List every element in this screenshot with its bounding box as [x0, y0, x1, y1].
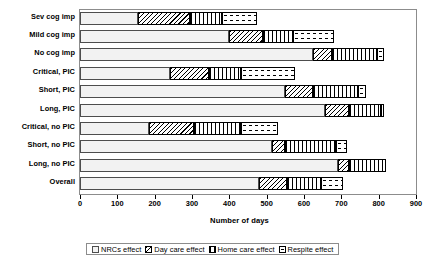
- legend-label: Home care effect: [218, 245, 275, 254]
- chart-legend: NRCs effectDay care effectHome care effe…: [86, 243, 339, 255]
- x-tick-label: 600: [284, 199, 324, 208]
- bar-segment: [263, 30, 293, 43]
- x-axis-title: Number of days: [0, 216, 441, 225]
- bar-segment: [377, 48, 384, 61]
- x-tick-label: 500: [247, 199, 287, 208]
- y-axis-label: No cog imp: [0, 49, 75, 57]
- bar-segment: [149, 122, 194, 135]
- bar-segment: [241, 122, 278, 135]
- y-axis-label: Critical, PIC: [0, 68, 75, 76]
- bar-segment: [209, 67, 241, 80]
- legend-swatch: [279, 246, 286, 253]
- bar-segment: [80, 85, 285, 98]
- bars-container: [80, 10, 416, 194]
- bar-segment: [285, 140, 335, 153]
- y-axis-label: Mild cog imp: [0, 31, 75, 39]
- bar-segment: [80, 177, 259, 190]
- x-tick-label: 200: [135, 199, 175, 208]
- bar-segment: [80, 104, 325, 117]
- bar-segment: [241, 67, 295, 80]
- bar-segment: [190, 12, 222, 25]
- bar-segment: [336, 140, 347, 153]
- y-axis-category-labels: Sev cog impMild cog impNo cog impCritica…: [0, 9, 75, 195]
- legend-label: Respite effect: [288, 245, 334, 254]
- x-tick-label: 700: [321, 199, 361, 208]
- bar-segment: [293, 30, 334, 43]
- y-axis-label: Short, no PIC: [0, 141, 75, 149]
- bar-segment: [313, 48, 332, 61]
- legend-item: NRCs effect: [92, 245, 141, 254]
- y-axis-label: Sev cog imp: [0, 13, 75, 21]
- bar-segment: [358, 85, 365, 98]
- bar-segment: [80, 122, 149, 135]
- bar-segment: [272, 140, 285, 153]
- bar-segment: [381, 104, 385, 117]
- bar-segment: [332, 48, 377, 61]
- x-tick-label: 100: [97, 199, 137, 208]
- bar-segment: [138, 12, 190, 25]
- x-tick-label: 0: [60, 199, 100, 208]
- bar-segment: [349, 104, 381, 117]
- bar-segment: [80, 67, 170, 80]
- y-axis-label: Overall: [0, 178, 75, 186]
- bar-segment: [338, 159, 349, 172]
- x-tick-label: 400: [209, 199, 249, 208]
- bar-segment: [285, 85, 313, 98]
- x-tick-label: 800: [359, 199, 399, 208]
- x-tick-label: 300: [172, 199, 212, 208]
- legend-label: Day care effect: [154, 245, 204, 254]
- legend-swatch: [92, 246, 99, 253]
- legend-item: Home care effect: [209, 245, 275, 254]
- bar-segment: [222, 12, 257, 25]
- bar-segment: [259, 177, 287, 190]
- y-axis-label: Short, PIC: [0, 86, 75, 94]
- legend-item: Day care effect: [145, 245, 204, 254]
- bar-segment: [194, 122, 241, 135]
- x-axis-tick-labels: 0100200300400500600700800900: [0, 199, 441, 211]
- bar-segment: [325, 104, 349, 117]
- x-tick-label: 900: [396, 199, 436, 208]
- legend-label: NRCs effect: [101, 245, 141, 254]
- bar-segment: [80, 12, 138, 25]
- x-axis-title-text: Number of days: [172, 216, 269, 225]
- legend-swatch: [209, 246, 216, 253]
- bar-segment: [313, 85, 358, 98]
- bar-segment: [229, 30, 263, 43]
- bar-segment: [287, 177, 321, 190]
- bar-segment: [80, 159, 338, 172]
- bar-segment: [349, 159, 386, 172]
- bar-segment: [80, 140, 272, 153]
- y-axis-label: Long, PIC: [0, 105, 75, 113]
- legend-item: Respite effect: [279, 245, 334, 254]
- legend-swatch: [145, 246, 152, 253]
- y-axis-label: Long, no PIC: [0, 160, 75, 168]
- bar-segment: [80, 30, 229, 43]
- stacked-bar-chart: Sev cog impMild cog impNo cog impCritica…: [0, 0, 441, 266]
- bar-segment: [80, 48, 313, 61]
- bar-segment: [170, 67, 209, 80]
- bar-segment: [321, 177, 343, 190]
- y-axis-label: Critical, no PIC: [0, 123, 75, 131]
